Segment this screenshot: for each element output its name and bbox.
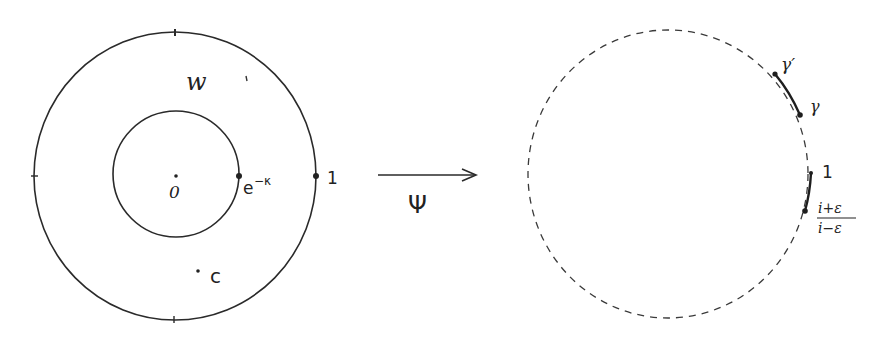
outer-one-dot [313, 173, 319, 179]
gamma-dot [797, 112, 803, 118]
fraction-denominator: i−ε [818, 220, 842, 236]
one-dot [809, 171, 813, 175]
dashed-circle [528, 30, 808, 318]
diagram-canvas: w 0 e −κ 1 c Ψ [0, 0, 893, 349]
gamma-prime-dot [772, 71, 777, 76]
outer-one-label: 1 [327, 168, 338, 188]
gamma-prime-label: γ′ [781, 54, 795, 74]
map-label-psi: Ψ [408, 191, 427, 219]
origin-label: 0 [169, 182, 180, 202]
point-c-label: c [210, 264, 221, 288]
region-label-w: w [186, 68, 207, 96]
one-label: 1 [822, 162, 833, 182]
point-c-dot [196, 269, 200, 273]
gamma-label: γ [810, 97, 820, 116]
fraction-numerator: i+ε [818, 200, 842, 216]
stray-mark [246, 76, 247, 81]
inner-radius-label: e [243, 178, 253, 198]
annulus-panel: w 0 e −κ 1 c [31, 29, 338, 323]
map-arrow-group: Ψ [378, 169, 476, 219]
fraction-point-dot [802, 208, 808, 214]
inner-radius-dot [236, 173, 242, 179]
disk-panel: γ′ γ 1 i+ε i−ε [528, 30, 856, 318]
gamma-arc [775, 74, 800, 115]
inner-radius-exponent: −κ [254, 174, 271, 188]
origin-dot [174, 174, 178, 178]
inner-circle [113, 111, 239, 237]
